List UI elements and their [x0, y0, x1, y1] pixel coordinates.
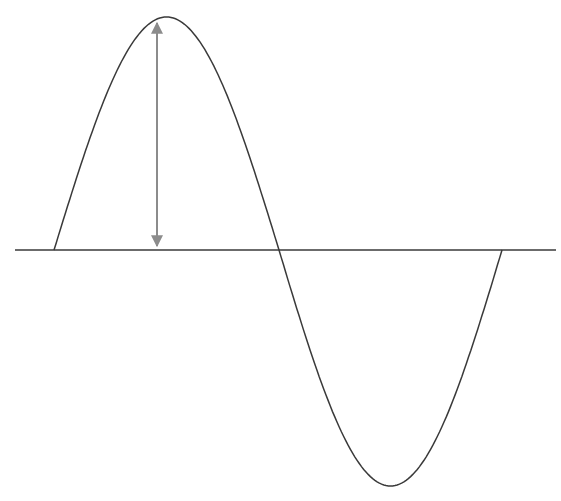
sine-wave-diagram — [0, 0, 561, 501]
sine-wave-curve — [54, 17, 502, 486]
